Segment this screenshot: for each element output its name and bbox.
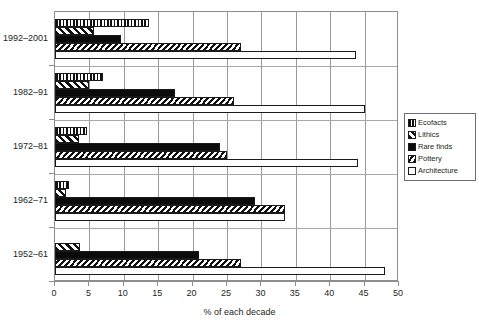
bar-group: [55, 120, 397, 174]
x-axis-tick-label: 35: [290, 288, 300, 298]
legend-item: Rare finds: [408, 141, 472, 152]
bar-group: [55, 12, 397, 66]
x-axis-tick: [226, 281, 227, 286]
bar-ecofacts: [55, 127, 87, 135]
legend-item: Ecofacts: [408, 117, 472, 128]
legend-label: Ecofacts: [418, 118, 447, 127]
y-axis-tick-label: 1972–81: [13, 141, 48, 151]
x-axis-tick-label: 5: [86, 288, 91, 298]
legend-swatch-architecture: [408, 167, 416, 175]
x-axis-label: % of each decade: [0, 307, 479, 317]
x-axis-tick-label: 20: [187, 288, 197, 298]
y-axis-tick: [49, 227, 54, 228]
bar-lithics: [55, 81, 89, 89]
y-axis-tick-label: 1962–71: [13, 195, 48, 205]
y-axis-tick: [49, 65, 54, 66]
x-axis-tick: [157, 281, 158, 286]
y-axis-tick: [49, 173, 54, 174]
x-axis-tick: [398, 281, 399, 286]
bar-lithics: [55, 189, 66, 197]
bar-pottery: [55, 259, 241, 267]
legend-swatch-pottery: [408, 155, 416, 163]
x-axis-tick-label: 50: [393, 288, 403, 298]
bar-rare-finds: [55, 143, 220, 151]
x-axis-tick-label: 25: [221, 288, 231, 298]
group-separator: [55, 66, 397, 67]
x-axis-tick-label: 45: [359, 288, 369, 298]
bar-pottery: [55, 97, 234, 105]
x-axis-tick-label: 40: [324, 288, 334, 298]
y-axis-tick-label: 1992–2001: [3, 33, 48, 43]
bar-pottery: [55, 151, 227, 159]
y-axis-tick-label: 1952–61: [13, 249, 48, 259]
x-axis-tick: [123, 281, 124, 286]
bar-group: [55, 228, 397, 282]
x-axis-tick: [88, 281, 89, 286]
group-separator: [55, 228, 397, 229]
legend-item: Lithics: [408, 129, 472, 140]
legend-label: Architecture: [418, 166, 458, 175]
legend-label: Lithics: [418, 130, 439, 139]
legend-label: Pottery: [418, 154, 442, 163]
bar-rare-finds: [55, 35, 121, 43]
bar-group: [55, 174, 397, 228]
bar-ecofacts: [55, 181, 69, 189]
bar-pottery: [55, 205, 285, 213]
bar-lithics: [55, 243, 80, 251]
x-axis-tick: [295, 281, 296, 286]
x-axis-tick-label: 10: [118, 288, 128, 298]
bar-ecofacts: [55, 73, 103, 81]
x-axis-tick-label: 15: [152, 288, 162, 298]
legend-swatch-lithics: [408, 131, 416, 139]
bar-rare-finds: [55, 89, 175, 97]
legend-item: Pottery: [408, 153, 472, 164]
bar-architecture: [55, 213, 285, 221]
x-axis-tick-label: 30: [255, 288, 265, 298]
bar-rare-finds: [55, 251, 199, 259]
legend-label: Rare finds: [418, 142, 452, 151]
y-axis-tick: [49, 119, 54, 120]
y-axis-tick-label: 1982–91: [13, 87, 48, 97]
chart-legend: EcofactsLithicsRare findsPotteryArchitec…: [404, 113, 476, 181]
x-axis-tick: [192, 281, 193, 286]
plot-area: [54, 11, 398, 281]
bar-rare-finds: [55, 197, 255, 205]
bar-architecture: [55, 51, 356, 59]
x-axis-tick: [329, 281, 330, 286]
legend-swatch-ecofacts: [408, 119, 416, 127]
bar-architecture: [55, 159, 358, 167]
bar-lithics: [55, 27, 94, 35]
bar-chart: 05101520253035404550 % of each decade 19…: [0, 0, 479, 331]
x-axis-tick-label: 0: [51, 288, 56, 298]
bar-group: [55, 66, 397, 120]
x-axis-tick: [364, 281, 365, 286]
bar-architecture: [55, 267, 385, 275]
x-axis-tick: [260, 281, 261, 286]
legend-item: Architecture: [408, 165, 472, 176]
bar-ecofacts: [55, 19, 149, 27]
legend-swatch-rare-finds: [408, 143, 416, 151]
bar-architecture: [55, 105, 365, 113]
y-axis-tick: [49, 281, 54, 282]
group-separator: [55, 174, 397, 175]
group-separator: [55, 120, 397, 121]
bar-pottery: [55, 43, 241, 51]
bar-lithics: [55, 135, 79, 143]
x-axis-tick: [54, 281, 55, 286]
